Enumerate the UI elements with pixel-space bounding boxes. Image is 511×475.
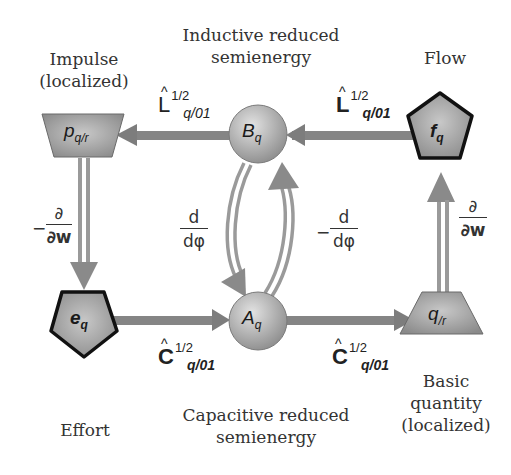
- operator-superscript: 1/2: [175, 340, 193, 355]
- caption-line: Impulse: [30, 48, 138, 70]
- caption-effort: Effort: [50, 419, 120, 441]
- minus-sign: −: [32, 218, 46, 238]
- caption-line: Flow: [410, 47, 480, 69]
- fraction-denominator: dφ: [180, 231, 208, 251]
- operator-L-left: ^ L1/2q/01: [158, 92, 211, 118]
- operator-L-right: ^ L1/2q/01: [336, 92, 391, 118]
- operator-dphi-right: − d dφ: [330, 207, 358, 251]
- node-subscript: q: [81, 318, 88, 332]
- node-subscript: /r: [439, 314, 446, 328]
- operator-dw-right: ∂ ∂w: [459, 196, 487, 240]
- node-symbol: e: [70, 307, 81, 328]
- arrow-p-to-e: [70, 158, 98, 290]
- node-symbol: p: [64, 120, 75, 141]
- caption-line: Basic: [396, 370, 496, 392]
- node-symbol: q: [428, 303, 439, 324]
- caption-flow: Flow: [410, 47, 480, 69]
- node-p-label: pq/r: [64, 120, 89, 145]
- arrow-B-to-p: [116, 124, 230, 146]
- fraction-bar: [459, 217, 487, 218]
- hat-accent: ^: [161, 336, 168, 352]
- node-q-label: q/r: [428, 303, 446, 328]
- arrow-f-to-B: [286, 124, 416, 146]
- operator-superscript: 1/2: [350, 88, 368, 103]
- node-symbol: B: [242, 120, 255, 141]
- hat-accent: ^: [335, 336, 342, 352]
- operator-dw-left: − ∂ ∂w: [46, 203, 72, 247]
- operator-superscript: 1/2: [171, 88, 189, 103]
- arrow-A-to-B-curved: [265, 182, 293, 296]
- diagram: Impulse (localized) Inductive reduced se…: [0, 0, 511, 475]
- arrow-e-to-A: [112, 309, 230, 331]
- hat-accent: ^: [161, 84, 168, 100]
- arrow-A-to-B-head: [268, 162, 299, 190]
- operator-subscript: q/01: [361, 357, 389, 373]
- caption-line: Effort: [50, 419, 120, 441]
- caption-line: Inductive reduced: [176, 24, 346, 46]
- operator-dphi-left: d dφ: [180, 207, 208, 251]
- fraction-denominator: ∂w: [459, 220, 487, 240]
- caption-inductive: Inductive reduced semienergy: [176, 24, 346, 68]
- fraction-bar: [180, 228, 208, 229]
- caption-basic: Basic quantity (localized): [396, 370, 496, 436]
- node-subscript: q: [255, 318, 262, 332]
- caption-line: semienergy: [176, 46, 346, 68]
- caption-capacitive: Capacitive reduced semienergy: [176, 404, 356, 448]
- operator-C-right: ^ C1/2q/01: [332, 344, 389, 370]
- fraction-bar: [46, 224, 72, 225]
- caption-line: quantity: [396, 392, 496, 414]
- fraction-numerator: ∂: [46, 203, 72, 223]
- node-subscript: q: [255, 131, 262, 145]
- caption-line: Capacitive reduced: [176, 404, 356, 426]
- node-subscript: q/r: [75, 131, 89, 145]
- arrow-q-to-f: [427, 172, 455, 292]
- fraction-denominator: ∂w: [46, 227, 72, 247]
- operator-subscript: q/01: [363, 105, 391, 121]
- arrow-A-to-q: [286, 309, 414, 331]
- caption-line: (localized): [396, 414, 496, 436]
- minus-sign: −: [316, 222, 330, 242]
- operator-C-left: ^ C1/2q/01: [158, 344, 215, 370]
- fraction-numerator: d: [180, 207, 208, 227]
- node-B-label: Bq: [242, 120, 261, 145]
- node-subscript: q: [436, 131, 443, 145]
- node-symbol: A: [242, 307, 255, 328]
- node-f-label: fq: [430, 120, 444, 145]
- caption-line: semienergy: [176, 426, 356, 448]
- node-A-label: Aq: [242, 307, 261, 332]
- operator-subscript: q/01: [183, 105, 210, 121]
- caption-line: (localized): [30, 70, 138, 92]
- fraction-numerator: ∂: [459, 196, 487, 216]
- caption-impulse: Impulse (localized): [30, 48, 138, 92]
- operator-superscript: 1/2: [349, 340, 367, 355]
- arrow-B-to-A-curved: [227, 163, 251, 278]
- fraction-bar: [330, 228, 358, 229]
- fraction-denominator: dφ: [330, 231, 358, 251]
- fraction-numerator: d: [330, 207, 358, 227]
- hat-accent: ^: [339, 84, 346, 100]
- node-e-label: eq: [70, 307, 88, 332]
- operator-subscript: q/01: [187, 357, 215, 373]
